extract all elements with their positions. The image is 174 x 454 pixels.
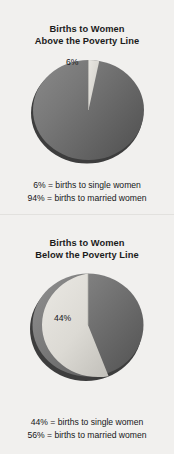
pie-chart-above-graphic (0, 54, 174, 164)
chart-title-above: Births to Women Above the Poverty Line (0, 0, 174, 48)
legend-below-line2: 56% = births to married women (0, 429, 174, 442)
chart-title-below: Births to Women Below the Poverty Line (0, 215, 174, 262)
chart-title-below-line1: Births to Women (50, 238, 125, 248)
pie-below-percent-label: 44% (54, 313, 71, 323)
legend-below-line1: 44% = births to single women (0, 416, 174, 429)
legend-above: 6% = births to single women 94% = births… (0, 179, 174, 204)
legend-below: 44% = births to single women 56% = birth… (0, 416, 174, 441)
pie-chart-below: 44% (0, 267, 174, 385)
chart-title-above-line2: Above the Poverty Line (35, 36, 139, 46)
legend-above-line1: 6% = births to single women (0, 179, 174, 192)
legend-above-line2: 94% = births to married women (0, 192, 174, 205)
pie-chart-below-graphic (0, 267, 174, 385)
chart-title-above-line1: Births to Women (50, 24, 125, 34)
infographic-page: Births to Women Above the Poverty Line (0, 0, 174, 454)
pie-chart-above: 6% (0, 54, 174, 164)
pie-above-percent-label: 6% (66, 57, 78, 67)
chart-title-below-line2: Below the Poverty Line (35, 250, 138, 260)
